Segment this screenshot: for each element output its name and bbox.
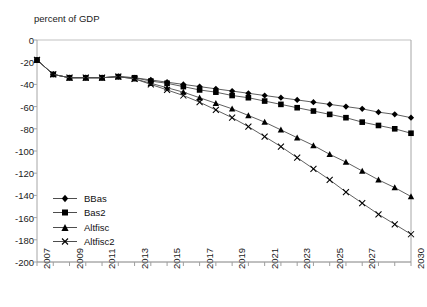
legend-key-x-icon — [53, 236, 77, 247]
plot-area — [0, 0, 427, 307]
legend-item-bbas[interactable]: BBas — [53, 191, 115, 206]
legend-label-bbas: BBas — [84, 193, 107, 204]
legend-key-triangle-icon — [53, 222, 77, 233]
legend-item-altfisc2[interactable]: Altfisc2 — [53, 235, 115, 250]
legend-item-altfisc[interactable]: Altfisc — [53, 220, 115, 235]
series-bas2 — [37, 60, 411, 133]
legend-key-square-icon — [53, 207, 77, 218]
legend-label-altfisc2: Altfisc2 — [84, 236, 115, 247]
series-bbas — [37, 60, 411, 118]
legend-key-diamond-icon — [53, 193, 77, 204]
legend-item-bas2[interactable]: Bas2 — [53, 206, 115, 221]
chart-container: percent of GDP 0-20-40-60-80-100-120-140… — [0, 0, 427, 307]
legend-label-altfisc: Altfisc — [84, 222, 109, 233]
chart-legend: BBas Bas2 Altfisc Altfisc2 — [53, 191, 115, 249]
legend-label-bas2: Bas2 — [84, 207, 106, 218]
series-altfisc — [37, 60, 411, 197]
